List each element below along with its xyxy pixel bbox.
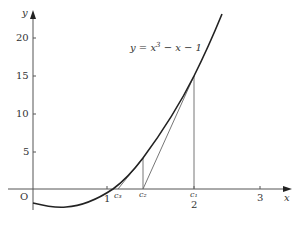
x-tick-label-2: 2	[191, 200, 197, 210]
y-axis-label: y	[22, 8, 28, 18]
x-axis-label-text: x	[284, 192, 290, 203]
equation-label: y = x3 − x − 1	[130, 42, 202, 53]
secant-c1-c2	[143, 76, 194, 189]
y-tick-label-15: 15	[16, 71, 29, 81]
y-axis-arrow-icon	[30, 10, 36, 19]
point-label-c1: c₁	[190, 191, 198, 199]
y-tick-label-20: 20	[16, 33, 29, 43]
equation-rhs: − x − 1	[161, 42, 202, 53]
equation-lhs: y = x	[130, 42, 156, 53]
origin-label: O	[20, 192, 28, 202]
y-tick-label-5: 5	[23, 147, 29, 157]
point-label-c3: c₃	[114, 192, 122, 200]
y-tick-label-10: 10	[16, 109, 29, 119]
x-tick-label-1: 1	[104, 194, 110, 204]
x-axis-label: x	[284, 193, 290, 203]
point-label-c2: c₂	[139, 191, 147, 199]
x-tick-label-3: 3	[257, 193, 263, 203]
